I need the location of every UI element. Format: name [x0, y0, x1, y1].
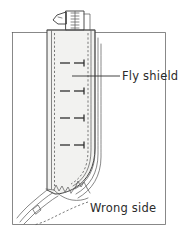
- figure-root: Fly shield Wrong side: [0, 0, 184, 242]
- label-wrong-side: Wrong side: [90, 201, 156, 215]
- zipper-teeth: [71, 12, 79, 30]
- zipper-pull-icon: [53, 12, 66, 24]
- label-fly-shield: Fly shield: [122, 69, 178, 83]
- zipper-assembly: [47, 11, 95, 30]
- fly-shield-diagram: Fly shield Wrong side: [0, 0, 184, 242]
